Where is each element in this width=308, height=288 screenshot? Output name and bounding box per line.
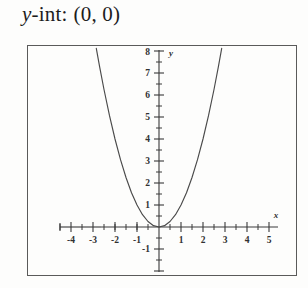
x-tick-label: -1: [133, 235, 141, 245]
y-tick-label: 2: [145, 178, 150, 188]
caption-value: (0, 0): [74, 2, 121, 26]
x-tick-labels: -4 -3 -2 -1 1 2 3 4 5: [67, 235, 272, 245]
x-tick-label: -4: [67, 235, 75, 245]
x-axis-label: x: [273, 210, 279, 220]
y-tick-label: 4: [145, 134, 150, 144]
caption-variable: y: [22, 2, 32, 26]
x-tick-label: 3: [223, 235, 228, 245]
figure-screen: y-int:(0, 0): [0, 0, 308, 288]
x-tick-label: -3: [89, 235, 97, 245]
x-tick-label: 4: [245, 235, 250, 245]
y-intercept-caption: y-int:(0, 0): [22, 2, 120, 27]
y-axis-label: y: [168, 48, 174, 58]
y-tick-label: 3: [145, 156, 150, 166]
y-tick-label: 7: [145, 68, 150, 78]
y-tick-label: 1: [145, 200, 150, 210]
x-tick-label: 1: [179, 235, 184, 245]
graph-frame: -4 -3 -2 -1 1 2 3 4 5 1 2 3 4 5 6 7 8 -1: [27, 45, 297, 276]
x-tick-label: 2: [201, 235, 206, 245]
parabola-plot: -4 -3 -2 -1 1 2 3 4 5 1 2 3 4 5 6 7 8 -1: [28, 46, 296, 275]
y-tick-label: 5: [145, 112, 150, 122]
y-tick-label: -1: [142, 244, 150, 254]
y-tick-label: 8: [145, 47, 150, 57]
x-tick-label: -2: [111, 235, 119, 245]
x-tick-label: 5: [267, 235, 272, 245]
caption-label: -int:: [32, 2, 68, 26]
y-tick-label: 6: [145, 90, 150, 100]
